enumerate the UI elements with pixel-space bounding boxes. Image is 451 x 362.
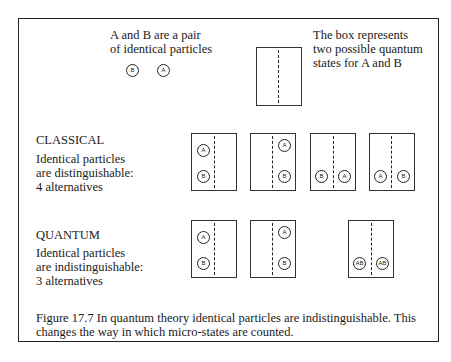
particle: A <box>197 231 210 244</box>
legend-state-box <box>256 47 302 106</box>
particle: A <box>278 139 291 152</box>
particle: A <box>374 170 387 183</box>
state-divider <box>272 223 273 275</box>
quantum-alt-1: A B <box>191 220 237 278</box>
particle: A <box>338 170 351 183</box>
particle: B <box>397 170 410 183</box>
box-description-line3: states for A and B <box>313 56 402 70</box>
particle-pair: AB <box>376 257 389 270</box>
classical-line1: Identical particles <box>36 152 125 166</box>
particle: B <box>278 257 291 270</box>
classical-alt-1: A B <box>191 133 237 191</box>
quantum-heading: QUANTUM <box>36 228 100 242</box>
particles-description-line1: A and B are a pair <box>110 28 201 42</box>
figure-caption: Figure 17.7 In quantum theory identical … <box>36 311 416 339</box>
particle: A <box>278 226 291 239</box>
state-divider <box>333 136 334 188</box>
particle-b: B <box>126 64 139 77</box>
quantum-line3: 3 alternatives <box>36 274 103 288</box>
classical-heading: CLASSICAL <box>36 133 104 147</box>
classical-line3: 4 alternatives <box>36 180 103 194</box>
particle-a: A <box>157 64 170 77</box>
state-divider <box>278 50 279 103</box>
particle-pair: AB <box>353 257 366 270</box>
quantum-line2: are indistinguishable: <box>36 260 143 274</box>
particle: B <box>278 170 291 183</box>
particle: B <box>197 170 210 183</box>
particle: B <box>315 170 328 183</box>
particle: A <box>197 144 210 157</box>
quantum-line1: Identical particles <box>36 246 125 260</box>
particle: B <box>197 257 210 270</box>
quantum-alt-3: AB AB <box>348 220 394 278</box>
state-divider <box>272 136 273 188</box>
classical-alt-4: A B <box>369 133 415 191</box>
classical-line2: are distinguishable: <box>36 166 134 180</box>
state-divider <box>214 223 215 275</box>
classical-alt-2: A B <box>250 133 296 191</box>
state-divider <box>391 136 392 188</box>
box-description-line2: two possible quantum <box>313 42 423 56</box>
quantum-alt-2: A B <box>250 220 296 278</box>
box-description-line1: The box represents <box>313 28 408 42</box>
state-divider <box>371 223 372 275</box>
classical-alt-3: B A <box>310 133 356 191</box>
state-divider <box>214 136 215 188</box>
particles-description-line2: of identical particles <box>110 42 212 56</box>
